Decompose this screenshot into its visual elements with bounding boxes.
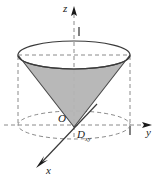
origin-label: O xyxy=(58,112,66,124)
y-axis-label: y xyxy=(145,126,151,138)
cone-diagram-svg: z y x O D xy 1 1 xyxy=(0,0,157,181)
region-label-D: D xyxy=(76,128,85,140)
x-axis-label: x xyxy=(45,164,51,176)
math-figure-container: z y x O D xy 1 1 xyxy=(0,0,157,181)
z-axis-label: z xyxy=(62,2,68,14)
region-label-subscript: xy xyxy=(84,135,91,142)
